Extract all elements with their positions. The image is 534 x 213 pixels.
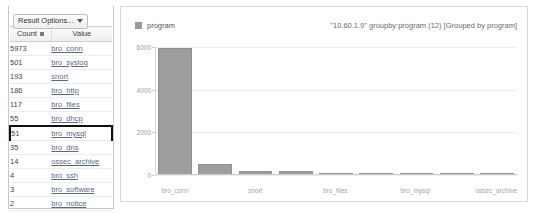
- table-row[interactable]: 35bro_dns: [10, 141, 112, 155]
- table-row[interactable]: 501bro_syslog: [10, 56, 112, 70]
- y-axis-tick-label: 4000: [137, 86, 151, 93]
- cell-count: 3: [10, 183, 51, 197]
- x-axis-label-slot: [355, 179, 395, 191]
- y-axis-tick-label: 6000: [137, 44, 151, 51]
- x-axis-label-slot: bro_files: [315, 179, 355, 191]
- x-axis-label-slot: [435, 179, 475, 191]
- x-axis-tick-label: bro_conn: [161, 187, 188, 194]
- chart-plot-area: 0200040006000: [155, 47, 517, 175]
- value-link[interactable]: snort: [51, 72, 68, 81]
- value-link[interactable]: bro_mysql: [51, 129, 86, 138]
- x-axis-tick-label: ossec_archive: [476, 187, 518, 194]
- bar-slot: [316, 47, 356, 175]
- cell-count: 117: [10, 98, 51, 112]
- bar[interactable]: [158, 48, 192, 175]
- result-explorer-widget: Result Options... Count Value: [0, 0, 534, 213]
- results-table-body: 5973bro_conn501bro_syslog193snort186bro_…: [10, 42, 112, 211]
- table-row[interactable]: 117bro_files: [10, 98, 112, 112]
- value-link[interactable]: bro_software: [51, 185, 94, 194]
- results-table: Count Value 5973bro_conn501bro_syslog193…: [9, 26, 113, 211]
- value-link[interactable]: bro_syslog: [51, 58, 87, 67]
- value-link[interactable]: bro_dns: [51, 143, 78, 152]
- chart-panel: program "10.60.1.9" groupby:program (12)…: [120, 6, 528, 202]
- table-row[interactable]: 55bro_dhcp: [10, 112, 112, 127]
- cell-value: bro_conn: [51, 42, 112, 56]
- chart-bars: [155, 47, 517, 175]
- table-header-row: Count Value: [10, 27, 112, 42]
- cell-count: 51: [10, 126, 51, 141]
- column-header-count[interactable]: Count: [10, 27, 51, 42]
- result-options-button[interactable]: Result Options...: [13, 14, 88, 29]
- cell-count: 5973: [10, 42, 51, 56]
- cell-value: bro_dns: [51, 141, 112, 155]
- value-link[interactable]: bro_ssh: [51, 171, 78, 180]
- cell-value: bro_http: [51, 84, 112, 98]
- cell-value: bro_files: [51, 98, 112, 112]
- table-row[interactable]: 3bro_software: [10, 183, 112, 197]
- value-link[interactable]: bro_http: [51, 86, 79, 95]
- value-link[interactable]: bro_files: [51, 100, 79, 109]
- cell-value: bro_software: [51, 183, 112, 197]
- cell-value: bro_notice: [51, 197, 112, 211]
- bar-slot: [155, 47, 195, 175]
- cell-value: snort: [51, 70, 112, 84]
- x-axis-labels: bro_connsnortbro_filesbro_mysqlossec_arc…: [155, 179, 517, 191]
- table-row[interactable]: 193snort: [10, 70, 112, 84]
- cell-count: 4: [10, 169, 51, 183]
- cell-value: bro_dhcp: [51, 112, 112, 127]
- cell-value: bro_syslog: [51, 56, 112, 70]
- x-axis-label-slot: snort: [235, 179, 275, 191]
- gridline: [155, 175, 517, 176]
- cell-count: 193: [10, 70, 51, 84]
- column-header-value-label: Value: [73, 29, 92, 38]
- sort-indicator-icon: [40, 32, 44, 36]
- bar-slot: [396, 47, 436, 175]
- table-row[interactable]: 186bro_http: [10, 84, 112, 98]
- bar-slot: [235, 47, 275, 175]
- x-axis-label-slot: bro_conn: [155, 179, 195, 191]
- bar-slot: [276, 47, 316, 175]
- cell-value: ossec_archive: [51, 155, 112, 169]
- cell-count: 186: [10, 84, 51, 98]
- chevron-down-icon: [77, 19, 83, 23]
- legend-label-program: program: [147, 21, 175, 30]
- x-axis-label-slot: ossec_archive: [476, 179, 518, 191]
- y-axis-tick-label: 0: [147, 172, 151, 179]
- cell-count: 35: [10, 141, 51, 155]
- legend-swatch-icon: [135, 22, 142, 29]
- x-axis-tick-label: snort: [248, 187, 262, 194]
- results-panel: Result Options... Count Value: [8, 6, 114, 209]
- x-axis-tick-label: bro_mysql: [400, 187, 430, 194]
- value-link[interactable]: ossec_archive: [51, 157, 99, 166]
- y-axis-tick-label: 2000: [137, 129, 151, 136]
- value-link[interactable]: bro_conn: [51, 44, 82, 53]
- chart-legend: program: [135, 21, 175, 30]
- cell-count: 14: [10, 155, 51, 169]
- x-axis-label-slot: [275, 179, 315, 191]
- table-row[interactable]: 4bro_ssh: [10, 169, 112, 183]
- bar-slot: [477, 47, 517, 175]
- cell-count: 55: [10, 112, 51, 127]
- bar-slot: [356, 47, 396, 175]
- cell-count: 2: [10, 197, 51, 211]
- x-axis-label-slot: bro_mysql: [395, 179, 435, 191]
- cell-value: bro_mysql: [51, 126, 112, 141]
- table-row[interactable]: 5973bro_conn: [10, 42, 112, 56]
- y-axis-tick: [152, 175, 155, 176]
- x-axis-line: [155, 174, 517, 175]
- value-link[interactable]: bro_notice: [51, 199, 86, 208]
- cell-count: 501: [10, 56, 51, 70]
- value-link[interactable]: bro_dhcp: [51, 114, 82, 123]
- bar-slot: [437, 47, 477, 175]
- cell-value: bro_ssh: [51, 169, 112, 183]
- bar-slot: [195, 47, 235, 175]
- result-options-bar: Result Options...: [9, 6, 113, 26]
- table-row[interactable]: 51bro_mysql: [10, 126, 112, 141]
- column-header-value[interactable]: Value: [51, 27, 112, 42]
- results-table-header: Count Value: [10, 27, 112, 42]
- table-row[interactable]: 14ossec_archive: [10, 155, 112, 169]
- column-header-count-label: Count: [17, 29, 37, 38]
- result-options-label: Result Options...: [18, 16, 73, 26]
- table-row[interactable]: 2bro_notice: [10, 197, 112, 211]
- x-axis-tick-label: bro_files: [323, 187, 348, 194]
